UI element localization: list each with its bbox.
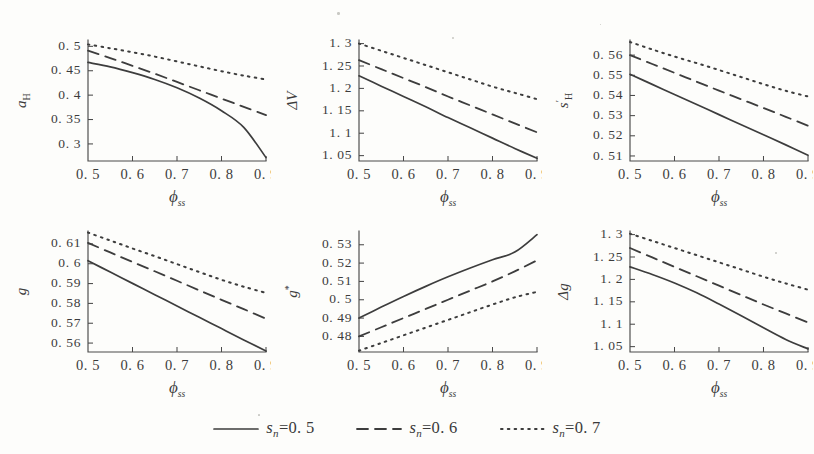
y-axis-ticks: 0. 480. 490. 50. 510. 520. 53 (322, 236, 364, 343)
chart-svg: 0. 30. 350. 40. 450. 50. 50. 60. 70. 80.… (0, 18, 271, 209)
y-tick-label: 0. 54 (593, 87, 623, 102)
x-tick-label: 0. 7 (707, 357, 731, 373)
scan-artifact (337, 12, 340, 15)
chart-svg: 0. 560. 570. 580. 590. 60. 610. 50. 60. … (0, 209, 271, 400)
series-line-dotted (630, 234, 808, 290)
y-tick-label: 0. 55 (593, 67, 623, 82)
series-group (359, 44, 537, 159)
series-group (88, 44, 266, 157)
panel-grid: 0. 30. 350. 40. 450. 50. 50. 60. 70. 80.… (0, 18, 814, 400)
series-line-dashed (359, 60, 537, 132)
x-tick-label: 0. 6 (662, 166, 686, 182)
chart-panel-g-star: 0. 480. 490. 50. 510. 520. 530. 50. 60. … (271, 209, 542, 400)
x-tick-label: 0. 8 (751, 357, 775, 373)
x-tick-label: 0. 5 (618, 357, 642, 373)
y-tick-label: 0. 5 (329, 291, 352, 306)
legend-swatch-dotted (500, 423, 546, 435)
x-tick-label: 0. 6 (391, 166, 415, 182)
x-axis-ticks: 0. 50. 60. 70. 80. 9 (347, 156, 542, 182)
y-axis-label: ΔV (284, 90, 300, 111)
y-tick-label: 0. 58 (51, 295, 81, 310)
x-tick-label: 0. 8 (209, 357, 233, 373)
y-axis-ticks: 0. 30. 350. 40. 450. 5 (51, 38, 93, 151)
y-axis-ticks: 1. 051. 11. 151. 21. 251. 3 (593, 226, 635, 353)
x-axis-ticks: 0. 50. 60. 70. 80. 9 (618, 347, 813, 373)
chart-svg: 1. 051. 11. 151. 21. 251. 30. 50. 60. 70… (542, 209, 813, 400)
x-tick-label: 0. 6 (391, 357, 415, 373)
x-tick-label: 0. 9 (254, 166, 271, 182)
y-tick-label: 0. 61 (51, 235, 81, 250)
x-axis-ticks: 0. 50. 60. 70. 80. 9 (76, 156, 271, 182)
axes (359, 40, 537, 161)
y-tick-label: 0. 45 (51, 62, 81, 77)
series-line-solid (630, 267, 808, 349)
y-tick-label: 0. 51 (322, 273, 352, 288)
x-axis-ticks: 0. 50. 60. 70. 80. 9 (76, 347, 271, 373)
legend-label: sn=0. 5 (266, 418, 314, 439)
y-tick-label: 1. 1 (329, 125, 352, 140)
y-tick-label: 0. 6 (58, 255, 81, 270)
y-tick-label: 0. 52 (593, 127, 623, 142)
legend-item: sn=0. 7 (500, 418, 601, 439)
y-tick-label: 1. 2 (600, 271, 623, 286)
y-axis-label: g* (283, 285, 300, 298)
x-tick-label: 0. 6 (662, 357, 686, 373)
series-line-dotted (88, 44, 266, 79)
x-axis-label: ϕss (169, 187, 186, 208)
y-tick-label: 1. 1 (600, 316, 623, 331)
y-tick-label: 0. 49 (322, 310, 352, 325)
y-axis-label: aH (13, 93, 32, 108)
figure-root: 0. 30. 350. 40. 450. 50. 50. 60. 70. 80.… (0, 0, 814, 454)
x-tick-label: 0. 7 (165, 357, 189, 373)
y-tick-label: 0. 3 (58, 136, 81, 151)
series-line-solid (88, 261, 266, 351)
y-tick-label: 0. 4 (58, 87, 81, 102)
x-tick-label: 0. 9 (525, 166, 542, 182)
y-tick-label: 1. 25 (322, 58, 352, 73)
y-tick-label: 0. 56 (593, 47, 623, 62)
legend-swatch-solid (213, 423, 259, 435)
series-line-solid (88, 62, 266, 157)
x-tick-label: 0. 7 (436, 166, 460, 182)
x-axis-label: ϕss (711, 378, 728, 399)
x-axis-label: ϕss (440, 187, 457, 208)
x-tick-label: 0. 6 (120, 166, 144, 182)
chart-panel-delta-v: 1. 051. 11. 151. 21. 251. 30. 50. 60. 70… (271, 18, 542, 209)
chart-svg: 0. 480. 490. 50. 510. 520. 530. 50. 60. … (271, 209, 542, 400)
chart-panel-g: 0. 560. 570. 580. 590. 60. 610. 50. 60. … (0, 209, 271, 400)
x-tick-label: 0. 8 (751, 166, 775, 182)
y-axis-label: g (13, 287, 29, 295)
x-tick-label: 0. 5 (347, 166, 371, 182)
y-tick-label: 1. 3 (600, 226, 623, 241)
series-group (630, 234, 808, 349)
series-line-dotted (88, 233, 266, 293)
x-axis-label: ϕss (711, 187, 728, 208)
legend-swatch-dashed (356, 423, 402, 435)
axes (630, 231, 808, 352)
x-axis-ticks: 0. 50. 60. 70. 80. 9 (618, 156, 813, 182)
y-tick-label: 0. 59 (51, 275, 81, 290)
x-tick-label: 0. 8 (480, 357, 504, 373)
series-group (88, 233, 266, 351)
x-tick-label: 0. 5 (76, 166, 100, 182)
y-tick-label: 0. 56 (51, 335, 81, 350)
y-tick-label: 0. 5 (58, 38, 81, 53)
series-group (359, 235, 537, 351)
x-tick-label: 0. 7 (707, 166, 731, 182)
x-tick-label: 0. 5 (347, 357, 371, 373)
y-tick-label: 1. 25 (593, 249, 623, 264)
x-axis-label: ϕss (169, 378, 186, 399)
y-tick-label: 0. 52 (322, 255, 352, 270)
chart-svg: 0. 510. 520. 530. 540. 550. 560. 50. 60.… (542, 18, 813, 209)
x-tick-label: 0. 5 (618, 166, 642, 182)
x-tick-label: 0. 7 (436, 357, 460, 373)
series-line-dashed (88, 51, 266, 115)
y-tick-label: 0. 53 (322, 236, 352, 251)
axes (88, 40, 266, 161)
series-line-dashed (359, 260, 537, 336)
series-line-dashed (88, 243, 266, 319)
y-tick-label: 1. 15 (593, 293, 623, 308)
y-axis-label: Δg (555, 283, 571, 301)
legend-item: sn=0. 5 (213, 418, 314, 439)
axes (88, 231, 266, 352)
